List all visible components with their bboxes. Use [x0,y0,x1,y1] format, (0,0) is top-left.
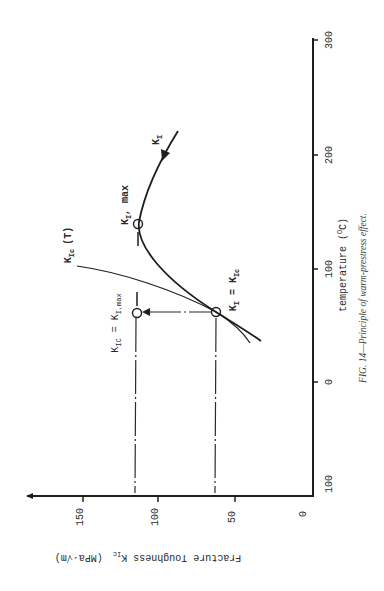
ki-equals-kic-line [215,318,216,493]
ki-max-label: KI, max [120,185,133,225]
kic-equals-kimax-label: KIC = KI,max [110,293,123,352]
kic-t-label: KIc(T) [63,227,76,263]
temperature-axis-title: temperature (OC) [336,218,349,312]
ki-label: KI [151,135,164,145]
k-tick-label-50: 50 [227,511,238,523]
ki-equals-kic-label: KI = KIc [228,269,241,312]
toughness-axis: 150 100 50 0 Fracture Toughness KIc(MPa·… [26,493,313,564]
kic-t-curve [77,266,250,343]
t-tick-label-300: 300 [324,31,335,49]
kic-equals-kimax-marker [133,309,142,318]
figure-caption: FIG. 14—Principle of warm-prestress effe… [358,213,368,384]
toughness-axis-title: Fracture Toughness KIc(MPa·√m) [55,550,241,564]
t-tick-label-0: 0 [324,379,335,385]
reference-lines [135,232,216,493]
k-tick-label-150: 150 [75,508,86,526]
warm-prestress-chart: 300 200 100 0 100 temperature (OC) 150 1… [0,0,384,591]
t-tick-label-neg100: 100 [324,475,335,493]
temperature-axis: 300 200 100 0 100 temperature (OC) [313,31,349,497]
t-tick-label-200: 200 [324,146,335,164]
kic-equals-kimax-line [135,318,136,493]
ki-curve [139,131,261,341]
t-tick-label-100: 100 [324,260,335,278]
transfer-arrow-icon [142,308,150,316]
k-tick-label-0: 0 [298,511,309,517]
axis-arrow-icon [26,493,33,499]
k-tick-label-100: 100 [150,508,161,526]
